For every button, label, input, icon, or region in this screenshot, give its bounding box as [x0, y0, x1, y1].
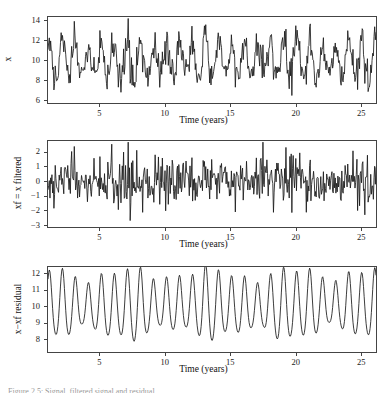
- y-tick-mark: [44, 196, 47, 197]
- x-tick-mark: [165, 228, 166, 231]
- plot-area-filtered: [47, 140, 377, 228]
- y-tick-mark: [44, 306, 47, 307]
- y-tick-mark: [44, 100, 47, 101]
- plot-area-signal: [47, 16, 377, 104]
- y-tick-mark: [44, 80, 47, 81]
- x-tick-mark: [296, 228, 297, 231]
- figure-caption-partial: Figure 2.5: Signal, filtered signal and …: [8, 387, 157, 393]
- y-tick-label: 14: [0, 16, 40, 24]
- y-axis-title-signal: x: [3, 39, 13, 79]
- y-tick-mark: [44, 60, 47, 61]
- y-tick-mark: [44, 225, 47, 226]
- x-axis-title-filtered: Time (years): [8, 239, 391, 249]
- y-tick-label: 6: [0, 96, 40, 104]
- y-tick-mark: [44, 290, 47, 291]
- panel-residual: 89101112 510152025 x−xf residual Time (y…: [0, 250, 391, 382]
- line-series-filtered: [48, 141, 376, 227]
- x-tick-mark: [99, 228, 100, 231]
- line-series-residual: [48, 267, 376, 352]
- x-tick-mark: [296, 353, 297, 356]
- x-tick-mark: [361, 353, 362, 356]
- x-tick-mark: [230, 228, 231, 231]
- y-tick-mark: [44, 166, 47, 167]
- x-tick-mark: [99, 104, 100, 107]
- y-tick-mark: [44, 181, 47, 182]
- y-tick-mark: [44, 339, 47, 340]
- y-tick-mark: [44, 210, 47, 211]
- x-tick-mark: [99, 353, 100, 356]
- y-tick-mark: [44, 323, 47, 324]
- y-tick-mark: [44, 273, 47, 274]
- x-tick-mark: [296, 104, 297, 107]
- panel-signal: 68101214 510152025 x Time (years): [0, 0, 391, 130]
- line-series-signal: [48, 17, 376, 103]
- y-axis-title-residual: x−xf residual: [13, 269, 23, 349]
- x-tick-mark: [165, 353, 166, 356]
- x-tick-mark: [230, 353, 231, 356]
- x-tick-mark: [361, 228, 362, 231]
- x-tick-mark: [361, 104, 362, 107]
- x-axis-title-residual: Time (years): [8, 364, 391, 374]
- panel-filtered: −3−2−1012 510152025 xf = x filtered Time…: [0, 124, 391, 254]
- plot-area-residual: [47, 266, 377, 353]
- y-axis-title-filtered: xf = x filtered: [13, 143, 23, 223]
- y-tick-mark: [44, 20, 47, 21]
- y-tick-mark: [44, 152, 47, 153]
- x-tick-mark: [165, 104, 166, 107]
- x-tick-mark: [230, 104, 231, 107]
- y-tick-mark: [44, 40, 47, 41]
